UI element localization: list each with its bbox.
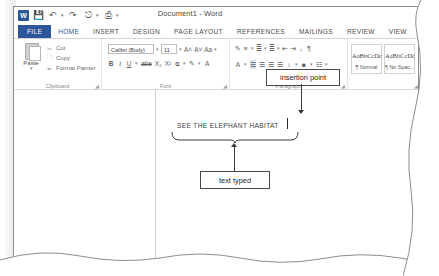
underline-dropdown-icon[interactable]: ▾	[135, 61, 138, 66]
center-icon[interactable]: ☰	[259, 60, 265, 69]
line-spacing-dropdown-icon[interactable]: ▾	[295, 62, 298, 67]
bullets-dropdown-icon[interactable]: ▾	[251, 46, 254, 51]
bullets-icon[interactable]: ≡	[243, 44, 249, 53]
font-size-dropdown-icon[interactable]: ▾	[179, 47, 182, 52]
annotation-arrowhead-text-typed	[231, 143, 237, 147]
align-left-icon[interactable]: ☰	[250, 60, 256, 69]
paste-icon	[23, 42, 40, 60]
ribbon-tab-strip: FILE HOME INSERT DESIGN PAGE LAYOUT REFE…	[14, 25, 418, 39]
clipboard-group-label: Clipboard	[14, 83, 101, 89]
text-insertion-caret	[287, 118, 288, 129]
ribbon-group-styles: AaBbCcDc ¶ Normal AaBbCcDc ¶ No Spac... …	[348, 39, 419, 89]
borders-dropdown-icon[interactable]: ▾	[325, 62, 328, 67]
italic-icon[interactable]: I	[117, 59, 123, 68]
font-name-dropdown-icon[interactable]: ▾	[156, 47, 159, 52]
style-sample-no-spacing: AaBbCcDc	[385, 52, 414, 59]
grow-font-icon[interactable]: A˄	[184, 45, 192, 54]
copy-icon: 🗋	[46, 55, 53, 62]
increase-indent-icon[interactable]: ⇥	[290, 44, 296, 53]
clipboard-dialog-launcher-icon[interactable]: ◢	[95, 83, 99, 89]
tab-view[interactable]: VIEW	[382, 25, 414, 38]
tab-file[interactable]: FILE	[18, 25, 51, 38]
paragraph-shading-dropdown-icon[interactable]: ▾	[310, 62, 313, 67]
font-group-label: Font	[102, 83, 229, 89]
format-painter-icon: ✒	[46, 65, 53, 72]
multilevel-list-icon[interactable]: ≣	[269, 44, 275, 53]
tab-references[interactable]: REFERENCES	[230, 25, 292, 38]
underline-icon[interactable]: U	[126, 59, 132, 68]
page-left-margin-line	[155, 90, 156, 266]
style-sample-normal: AaBbCcDc	[352, 52, 381, 59]
document-title: Document1 - Word	[14, 9, 418, 18]
borders-icon[interactable]: ☷	[316, 60, 322, 69]
justify-icon[interactable]: ☰	[277, 60, 283, 69]
ribbon-group-clipboard: Paste ▾ ✂ Cut 🗋 Copy ✒ Format Painter Cl…	[14, 39, 102, 89]
style-name-no-spacing: ¶ No Spac...	[385, 64, 414, 70]
paragraph-dialog-launcher-icon[interactable]: ◢	[341, 83, 345, 89]
format-painter-label: Format Painter	[56, 65, 96, 71]
tab-review[interactable]: REVIEW	[340, 25, 382, 38]
paste-button[interactable]: Paste ▾	[19, 42, 43, 71]
ribbon-group-font: Calibri (Body) ▾ 11 ▾ A˄ A˅ Aa ▾ B I U ▾…	[102, 39, 230, 89]
shading-icon[interactable]: ✎	[235, 44, 241, 53]
line-spacing-icon[interactable]: ↕	[286, 60, 292, 69]
title-bar: W 💾 ↶ ▾ ↷ ⎋ ▾ ⎙ ▾ Document1 - Word	[14, 7, 418, 25]
show-formatting-marks-icon[interactable]: ¶	[306, 44, 312, 53]
ribbon: Paste ▾ ✂ Cut 🗋 Copy ✒ Format Painter Cl…	[14, 39, 418, 90]
change-case-icon[interactable]: Aa	[204, 45, 212, 54]
cut-label: Cut	[56, 45, 65, 51]
scissors-icon: ✂	[46, 45, 53, 52]
format-painter-button[interactable]: ✒ Format Painter	[46, 63, 96, 73]
sort-icon[interactable]: ↓	[298, 44, 304, 53]
superscript-icon[interactable]: X²	[165, 59, 172, 68]
text-effects-icon[interactable]: ⍺	[174, 59, 180, 68]
style-tile-normal[interactable]: AaBbCcDc ¶ Normal	[351, 44, 382, 74]
shrink-font-icon[interactable]: A˅	[194, 45, 202, 54]
annotation-arrowhead-insertion-point	[298, 110, 304, 114]
align-right-icon[interactable]: ☰	[268, 60, 274, 69]
styles-dialog-launcher-icon[interactable]: ◢	[414, 83, 418, 89]
style-tile-no-spacing[interactable]: AaBbCcDc ¶ No Spac...	[384, 44, 415, 74]
annotation-insertion-point: insertion point	[266, 69, 340, 86]
font-color-swatch-icon[interactable]: A	[235, 60, 241, 69]
tab-mailings[interactable]: MAILINGS	[292, 25, 340, 38]
tab-insert[interactable]: INSERT	[86, 25, 126, 38]
tab-home[interactable]: HOME	[51, 25, 86, 38]
subscript-icon[interactable]: X₂	[155, 59, 162, 68]
font-size-combobox[interactable]: 11	[161, 44, 177, 54]
paragraph-shading-icon[interactable]: ■	[301, 60, 307, 69]
annotation-text-typed: text typed	[200, 171, 270, 189]
tab-design[interactable]: DESIGN	[126, 25, 167, 38]
style-name-normal: ¶ Normal	[352, 64, 381, 70]
annotation-leader-insertion-point	[301, 84, 302, 112]
bold-icon[interactable]: B	[108, 59, 114, 68]
font-dialog-launcher-icon[interactable]: ◢	[223, 83, 227, 89]
font-name-combobox[interactable]: Calibri (Body)	[108, 44, 154, 54]
font-color-dropdown-icon[interactable]: ▾	[244, 62, 247, 67]
annotation-leader-text-typed	[234, 147, 235, 172]
copy-button[interactable]: 🗋 Copy	[46, 53, 96, 63]
numbering-dropdown-icon[interactable]: ▾	[264, 46, 267, 51]
text-highlight-icon[interactable]: ✎	[189, 59, 195, 68]
tab-page-layout[interactable]: PAGE LAYOUT	[167, 25, 230, 38]
change-case-dropdown-icon[interactable]: ▾	[214, 47, 217, 52]
text-highlight-dropdown-icon[interactable]: ▾	[198, 61, 201, 66]
word-application-window: W 💾 ↶ ▾ ↷ ⎋ ▾ ⎙ ▾ Document1 - Word FILE …	[13, 6, 419, 266]
font-color-icon[interactable]: A	[204, 59, 210, 68]
numbering-icon[interactable]: ≣	[256, 44, 262, 53]
paste-dropdown-icon[interactable]: ▾	[19, 66, 43, 71]
decrease-indent-icon[interactable]: ⇤	[282, 44, 288, 53]
copy-label: Copy	[56, 55, 70, 61]
annotation-brace	[171, 131, 299, 143]
cut-button[interactable]: ✂ Cut	[46, 43, 96, 53]
multilevel-list-dropdown-icon[interactable]: ▾	[277, 46, 280, 51]
strikethrough-icon[interactable]: abe	[141, 59, 152, 68]
text-effects-dropdown-icon[interactable]: ▾	[183, 61, 186, 66]
document-typed-text: SEE THE ELEPHANT HABITAT	[177, 122, 279, 129]
